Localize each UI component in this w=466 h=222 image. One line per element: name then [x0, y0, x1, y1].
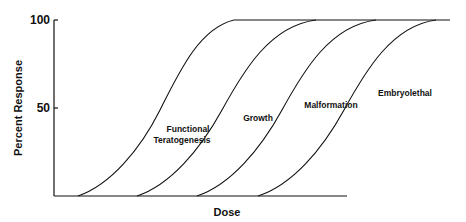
- y-axis-title: Percent Response: [12, 60, 24, 156]
- curve-growth: [137, 20, 316, 196]
- label-growth: Growth: [243, 113, 273, 123]
- curve-functional-teratogenesis: [78, 20, 234, 196]
- label-teratogenesis: Teratogenesis: [153, 135, 210, 145]
- label-malformation: Malformation: [304, 100, 357, 110]
- label-functional: Functional: [167, 124, 210, 134]
- label-embryolethal: Embryolethal: [378, 88, 432, 98]
- dose-response-chart: 100 50 Percent Response Dose Functional …: [0, 0, 466, 222]
- y-tick-label-50: 50: [37, 101, 51, 115]
- y-tick-label-100: 100: [30, 13, 50, 27]
- x-axis-title: Dose: [214, 206, 241, 218]
